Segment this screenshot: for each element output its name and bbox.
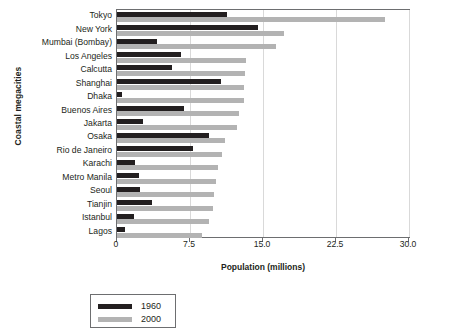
bar-2000 [117,152,222,157]
bar-1960 [117,200,152,205]
category-label: Seoul [16,186,112,195]
bar-1960 [117,146,193,151]
bar-1960 [117,79,221,84]
x-axis-title: Population (millions) [116,262,410,272]
bar-2000 [117,71,245,76]
category-label: Tianjin [16,200,112,209]
legend-label: 1960 [141,301,161,311]
plot-area [116,9,410,238]
bar-2000 [117,31,284,36]
bar-2000 [117,179,216,184]
gridline [336,10,337,237]
bar-2000 [117,138,225,143]
category-label: New York [16,25,112,34]
gridline [409,10,410,237]
bar-1960 [117,52,181,57]
bar-1960 [117,119,143,124]
category-label: Calcutta [16,65,112,74]
chart-legend: 19602000 [90,294,176,328]
bar-2000 [117,17,385,22]
x-tick-label: 7.5 [169,239,209,249]
bar-1960 [117,187,140,192]
bar-1960 [117,65,172,70]
bar-2000 [117,233,202,238]
bar-1960 [117,160,135,165]
category-label: Metro Manila [16,173,112,182]
legend-item: 1960 [98,300,161,312]
bar-2000 [117,85,244,90]
bar-2000 [117,165,218,170]
bar-2000 [117,125,237,130]
bar-1960 [117,214,134,219]
bar-2000 [117,206,213,211]
category-label: Istanbul [16,213,112,222]
bar-2000 [117,44,276,49]
x-tick-label: 22.5 [315,239,355,249]
category-label: Tokyo [16,11,112,20]
bar-1960 [117,106,184,111]
bar-2000 [117,192,214,197]
category-label: Shanghai [16,79,112,88]
legend-label: 2000 [141,314,161,324]
bar-2000 [117,219,209,224]
category-label: Dhaka [16,92,112,101]
category-label: Jakarta [16,119,112,128]
legend-item: 2000 [98,313,161,325]
category-label: Buenos Aires [16,106,112,115]
bar-1960 [117,227,125,232]
x-tick-label: 30.0 [388,239,428,249]
category-label: Rio de Janeiro [16,146,112,155]
x-tick-label: 15.0 [242,239,282,249]
bar-2000 [117,58,246,63]
bar-2000 [117,98,244,103]
legend-swatch [98,304,132,309]
category-label: Mumbai (Bombay) [16,38,112,47]
bar-1960 [117,92,122,97]
bar-1960 [117,39,157,44]
category-label: Los Angeles [16,52,112,61]
category-label-list: TokyoNew YorkMumbai (Bombay)Los AngelesC… [16,9,112,238]
bar-1960 [117,12,227,17]
x-tick-label: 0 [96,239,136,249]
bar-1960 [117,173,139,178]
category-label: Lagos [16,227,112,236]
bar-1960 [117,133,209,138]
legend-swatch [98,317,132,322]
bar-2000 [117,111,239,116]
bar-chart-figure: Coastal megacities TokyoNew YorkMumbai (… [0,0,451,336]
category-label: Karachi [16,159,112,168]
bar-1960 [117,25,258,30]
category-label: Osaka [16,132,112,141]
